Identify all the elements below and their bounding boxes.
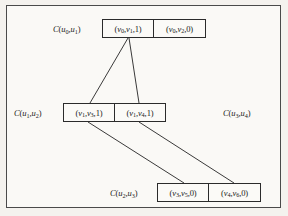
node-label-c01: C(u0,u1) xyxy=(53,24,80,34)
figure-canvas: C(u0,u1) C(u1,u2) C(u3,u4) C(u2,u3) (v0,… xyxy=(0,0,288,216)
record-cell: (v0,v1,1) xyxy=(103,20,153,37)
edge-top1-to-mid1 xyxy=(90,38,128,103)
record-cell: (v1,v4,1) xyxy=(114,104,165,121)
record-cell: (v3,v5,0) xyxy=(158,184,208,201)
node-label-c23: C(u2,u3) xyxy=(110,188,137,198)
edge-mid2-to-bot2 xyxy=(139,122,234,183)
record-cell: (v0,v2,0) xyxy=(153,20,205,37)
record-row-top: (v0,v1,1) (v0,v2,0) xyxy=(102,19,206,38)
record-cell: (v4,v6,0) xyxy=(208,184,260,201)
node-label-c34: C(u3,u4) xyxy=(223,108,250,118)
record-row-middle: (v1,v3,1) (v1,v4,1) xyxy=(63,103,166,122)
record-cell: (v1,v3,1) xyxy=(64,104,114,121)
node-label-c12: C(u1,u2) xyxy=(14,108,41,118)
record-row-bottom: (v3,v5,0) (v4,v6,0) xyxy=(157,183,261,202)
edge-top1-to-mid2 xyxy=(129,38,139,103)
edge-mid1-to-bot1 xyxy=(88,122,184,183)
